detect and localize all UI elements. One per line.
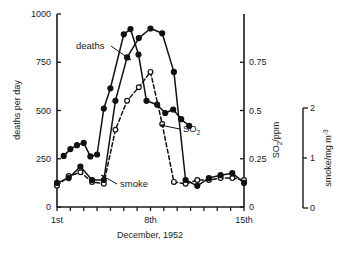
- series-deaths-point: [136, 52, 141, 57]
- series-smoke-point: [195, 183, 200, 188]
- y-ticklabel-so2: 0: [249, 202, 254, 212]
- y-ticklabel-smoke: 1: [310, 153, 315, 163]
- y-ticklabel-smoke: 2: [310, 103, 315, 113]
- chart-container: 0250500750100000.250.50.751st8th15th012d…: [0, 0, 341, 253]
- series-deaths-point: [128, 27, 133, 32]
- x-axis-title: December, 1952: [117, 230, 183, 240]
- series-smoke-point: [148, 26, 153, 31]
- y-ticklabel-deaths: 750: [36, 57, 51, 67]
- series-deaths-point: [144, 98, 149, 103]
- x-ticklabel: 8th: [144, 215, 157, 225]
- series-smoke-point: [113, 98, 118, 103]
- series-deaths-point: [163, 111, 168, 116]
- series-so2-point: [78, 170, 83, 175]
- series-deaths-point: [81, 140, 86, 145]
- series-so2-point: [113, 127, 118, 132]
- annotation-smoke: smoke: [120, 178, 148, 189]
- x-ticklabel: 15th: [235, 215, 253, 225]
- y-axis-title-so2: SO2/ppm: [271, 122, 283, 159]
- y-ticklabel-so2: 0.5: [249, 106, 262, 116]
- series-deaths-point: [88, 154, 93, 159]
- y-axis-title-deaths: deaths per day: [12, 80, 22, 140]
- y-ticklabel-so2: 0.25: [249, 154, 267, 164]
- series-so2-point: [148, 70, 153, 75]
- series-so2-line: [57, 72, 244, 186]
- series-smoke-point: [183, 178, 188, 183]
- annotation-deaths: deaths: [76, 40, 105, 51]
- series-so2-point: [125, 98, 130, 103]
- series-smoke-point: [218, 173, 223, 178]
- series-so2-point: [230, 176, 235, 181]
- series-smoke-point: [66, 176, 71, 181]
- y-ticklabel-deaths: 1000: [31, 9, 51, 19]
- series-smoke-point: [242, 180, 247, 185]
- series-deaths-point: [61, 153, 66, 158]
- series-so2-point: [136, 85, 141, 90]
- series-deaths-point: [75, 143, 80, 148]
- series-smoke-point: [160, 31, 165, 36]
- series-smoke-point: [171, 69, 176, 74]
- series-deaths-point: [121, 32, 126, 37]
- y-ticklabel-so2: 0.75: [249, 57, 267, 67]
- london-smog-chart: 0250500750100000.250.50.751st8th15th012d…: [0, 0, 341, 253]
- series-smoke-point: [136, 36, 141, 41]
- series-smoke-point: [78, 164, 83, 169]
- series-deaths-point: [101, 106, 106, 111]
- y-ticklabel-deaths: 250: [36, 154, 51, 164]
- y-ticklabel-deaths: 0: [46, 202, 51, 212]
- y-axis-title-smoke: smoke/mg m-3: [322, 129, 333, 187]
- series-deaths-point: [108, 86, 113, 91]
- series-so2-point: [195, 178, 200, 183]
- y-ticklabel-deaths: 500: [36, 106, 51, 116]
- y-ticklabel-smoke: 0: [310, 203, 315, 213]
- series-smoke-point: [90, 178, 95, 183]
- series-smoke-point: [55, 180, 60, 185]
- x-ticklabel: 1st: [51, 215, 64, 225]
- series-so2-point: [172, 180, 177, 185]
- series-smoke-line: [57, 29, 244, 186]
- series-smoke-point: [230, 171, 235, 176]
- annotation-so2: SO2: [183, 123, 201, 136]
- series-deaths-point: [171, 107, 176, 112]
- series-smoke-point: [206, 176, 211, 181]
- series-deaths-point: [95, 152, 100, 157]
- series-deaths-point: [68, 147, 73, 152]
